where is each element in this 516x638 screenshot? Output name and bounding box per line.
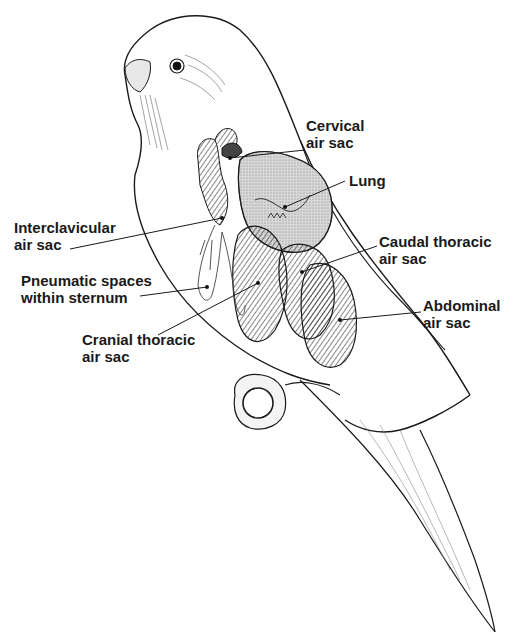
label-line: within sternum [21,289,152,306]
label-line: Abdominal [423,297,501,314]
cervical-sac [222,143,242,158]
label-line: air sac [14,236,116,253]
label-abdominal-air-sac: Abdominal air sac [423,297,501,331]
label-line: air sac [82,348,195,365]
label-line: Cervical [306,117,364,134]
label-line: Pneumatic spaces [21,272,152,289]
label-cervical-air-sac: Cervical air sac [306,117,364,151]
label-cranial-thoracic-air-sac: Cranial thoracic air sac [82,331,195,365]
foot-perch [234,374,340,429]
label-line: air sac [423,314,501,331]
air-sac-diagram: Cervical air sac Lung Interclavicular ai… [0,0,516,638]
label-pneumatic-spaces: Pneumatic spaces within sternum [21,272,152,306]
label-line: Cranial thoracic [82,331,195,348]
label-caudal-thoracic-air-sac: Caudal thoracic air sac [379,233,492,267]
cranial-thoracic-sac [233,226,287,341]
label-line: Caudal thoracic [379,233,492,250]
label-interclavicular-air-sac: Interclavicular air sac [14,219,116,253]
label-line: Interclavicular [14,219,116,236]
head-detail [125,55,225,150]
label-line: air sac [379,250,492,267]
label-line: air sac [306,134,364,151]
label-lung: Lung [349,172,386,189]
abdominal-sac [301,263,356,367]
tail [300,380,495,632]
label-line: Lung [349,172,386,189]
